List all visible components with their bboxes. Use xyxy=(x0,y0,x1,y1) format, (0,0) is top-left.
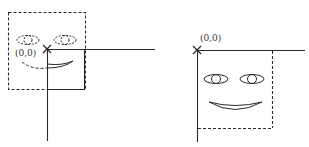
left-eye xyxy=(204,75,228,84)
dashed-right-eye xyxy=(54,36,76,45)
right-eye xyxy=(240,75,264,84)
solid-clipped-square xyxy=(47,49,85,90)
left-figure xyxy=(9,13,156,142)
dashed-smile-part xyxy=(22,62,47,68)
right-origin-label: (0,0) xyxy=(200,33,221,43)
right-figure xyxy=(193,46,305,142)
diagram-canvas: (0,0) (0,0) xyxy=(0,0,309,147)
smile xyxy=(209,102,262,110)
dashed-left-eye xyxy=(17,36,39,45)
left-origin-label: (0,0) xyxy=(15,48,36,58)
solid-smile-part xyxy=(47,61,73,68)
